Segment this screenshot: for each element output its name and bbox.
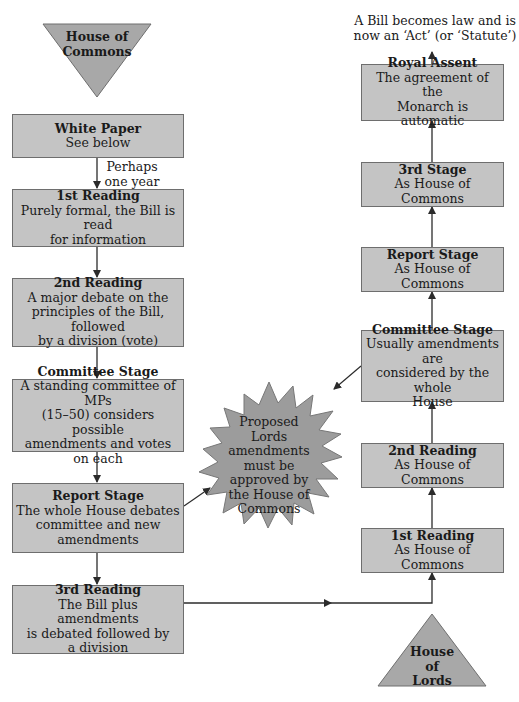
- commons-stage-white-paper: White Paper See below: [12, 114, 184, 158]
- stage-title: 3rd Reading: [55, 583, 141, 598]
- stage-desc: A standing committee of MPs (15–50) cons…: [16, 379, 180, 466]
- stage-desc: The whole House debates committee and ne…: [16, 504, 179, 548]
- stage-desc: Usually amendments are considered by the…: [365, 337, 500, 410]
- stage-desc: See below: [66, 136, 131, 151]
- time-note: Perhaps one year: [104, 160, 160, 189]
- stage-title: 2nd Reading: [54, 276, 143, 291]
- stage-title: 1st Reading: [56, 189, 140, 204]
- stage-title: Committee Stage: [38, 365, 159, 380]
- starburst-text: Proposed Lords amendments must be approv…: [222, 415, 316, 517]
- stage-desc: Purely formal, the Bill is read for info…: [16, 204, 180, 248]
- stage-desc: As House of Commons: [365, 262, 500, 291]
- commons-stage-1st-reading: 1st Reading Purely formal, the Bill is r…: [12, 189, 184, 247]
- stage-title: Committee Stage: [372, 323, 493, 338]
- stage-title: 2nd Reading: [388, 444, 477, 459]
- lords-stage-report: Report Stage As House of Commons: [361, 247, 504, 292]
- stage-title: Report Stage: [52, 489, 144, 504]
- lords-stage-1st-reading: 1st Reading As House of Commons: [361, 528, 504, 573]
- lords-stage-royal-assent: Royal Assent The agreement of the Monarc…: [361, 64, 504, 121]
- commons-stage-committee: Committee Stage A standing committee of …: [12, 379, 184, 452]
- stage-desc: As House of Commons: [365, 458, 500, 487]
- house-of-commons-label: House of Commons: [52, 30, 142, 59]
- lords-stage-2nd-reading: 2nd Reading As House of Commons: [361, 443, 504, 488]
- outcome-label: A Bill becomes law and is now an ‘Act’ (…: [352, 14, 518, 43]
- commons-stage-3rd-reading: 3rd Reading The Bill plus amendments is …: [12, 585, 184, 654]
- stage-title: Report Stage: [387, 248, 479, 263]
- house-of-lords-label: House of Lords: [402, 645, 462, 689]
- stage-title: White Paper: [55, 122, 141, 137]
- commons-stage-2nd-reading: 2nd Reading A major debate on the princi…: [12, 278, 184, 347]
- commons-stage-report: Report Stage The whole House debates com…: [12, 483, 184, 553]
- stage-desc: The Bill plus amendments is debated foll…: [16, 598, 180, 656]
- stage-desc: The agreement of the Monarch is automati…: [365, 71, 500, 129]
- lords-stage-3rd: 3rd Stage As House of Commons: [361, 162, 504, 207]
- stage-title: Royal Assent: [388, 56, 478, 71]
- stage-title: 3rd Stage: [399, 163, 467, 178]
- lords-stage-committee: Committee Stage Usually amendments are c…: [361, 330, 504, 402]
- stage-desc: As House of Commons: [365, 177, 500, 206]
- stage-title: 1st Reading: [391, 529, 475, 544]
- stage-desc: A major debate on the principles of the …: [16, 291, 180, 349]
- stage-desc: As House of Commons: [365, 543, 500, 572]
